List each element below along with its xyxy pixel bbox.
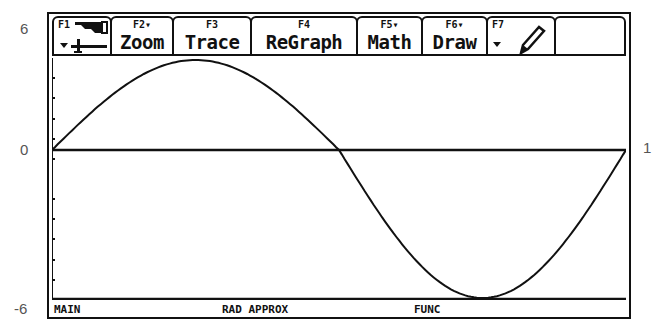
regraph-label: ReGraph bbox=[252, 31, 356, 53]
calculator-screen: F1 F2▾ Zoom F3 Trace F4 ReGraph F5▾ Math bbox=[47, 12, 631, 319]
f4-key-label: F4 bbox=[252, 19, 356, 30]
f5-key-label: F5▾ bbox=[358, 19, 421, 30]
y-axis-max-label: 6 bbox=[20, 20, 28, 37]
y-axis-ticks bbox=[52, 58, 55, 300]
f4-regraph-button[interactable]: F4 ReGraph bbox=[250, 16, 358, 56]
f6-draw-button[interactable]: F6▾ Draw bbox=[421, 16, 488, 56]
f2-key-label: F2▾ bbox=[112, 19, 172, 30]
y-axis-zero-label: 0 bbox=[20, 141, 28, 158]
function-key-toolbar: F1 F2▾ Zoom F3 Trace F4 ReGraph F5▾ Math bbox=[52, 16, 626, 56]
zoom-label: Zoom bbox=[112, 31, 172, 53]
status-graph-mode: FUNC bbox=[414, 302, 441, 317]
status-folder: MAIN bbox=[54, 302, 81, 317]
empty-function-key bbox=[554, 16, 626, 56]
f3-key-label: F3 bbox=[174, 19, 250, 30]
x-axis-max-label: 1 bbox=[643, 139, 651, 156]
sine-curve bbox=[52, 60, 626, 298]
math-label: Math bbox=[358, 31, 421, 53]
status-angle-mode: RAD APPROX bbox=[222, 302, 288, 317]
y-axis-min-label: -6 bbox=[14, 300, 27, 317]
f3-trace-button[interactable]: F3 Trace bbox=[172, 16, 252, 56]
f5-math-button[interactable]: F5▾ Math bbox=[356, 16, 423, 56]
graph-plot-area bbox=[52, 58, 626, 300]
trace-label: Trace bbox=[174, 31, 250, 53]
f1-tools-button[interactable]: F1 bbox=[52, 16, 112, 56]
f2-zoom-button[interactable]: F2▾ Zoom bbox=[110, 16, 174, 56]
draw-label: Draw bbox=[423, 31, 486, 53]
f6-key-label: F6▾ bbox=[423, 19, 486, 30]
tools-menu-icon bbox=[55, 19, 111, 55]
pencil-icon bbox=[489, 19, 555, 55]
f7-pencil-button[interactable]: F7 bbox=[486, 16, 556, 56]
status-bar: MAIN RAD APPROX FUNC bbox=[52, 302, 626, 317]
